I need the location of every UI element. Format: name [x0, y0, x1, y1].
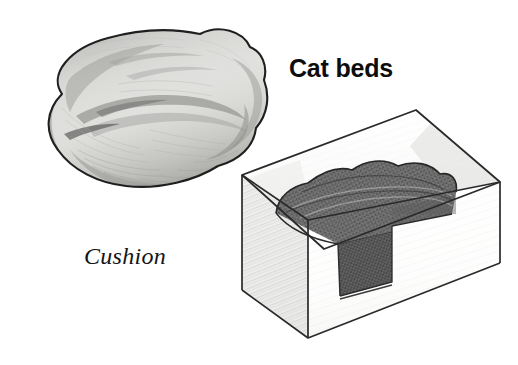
- cushion-drawing: [10, 20, 280, 200]
- cardboard-box-drawing: [242, 110, 500, 338]
- page-title: Cat beds: [289, 54, 393, 83]
- cushion-label: Cushion: [84, 243, 166, 270]
- figure-canvas: Cat beds Cushion: [0, 0, 518, 365]
- illustration-svg: [0, 0, 518, 365]
